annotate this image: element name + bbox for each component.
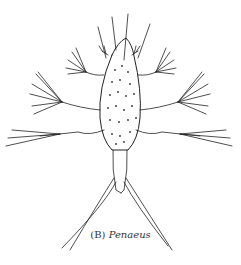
larva-illustration: [0, 0, 241, 265]
caption-label: (B): [90, 229, 105, 240]
top-spine: [124, 14, 128, 60]
figure-caption: (B) Penaeus: [0, 229, 241, 240]
caption-genus: Penaeus: [109, 229, 151, 240]
